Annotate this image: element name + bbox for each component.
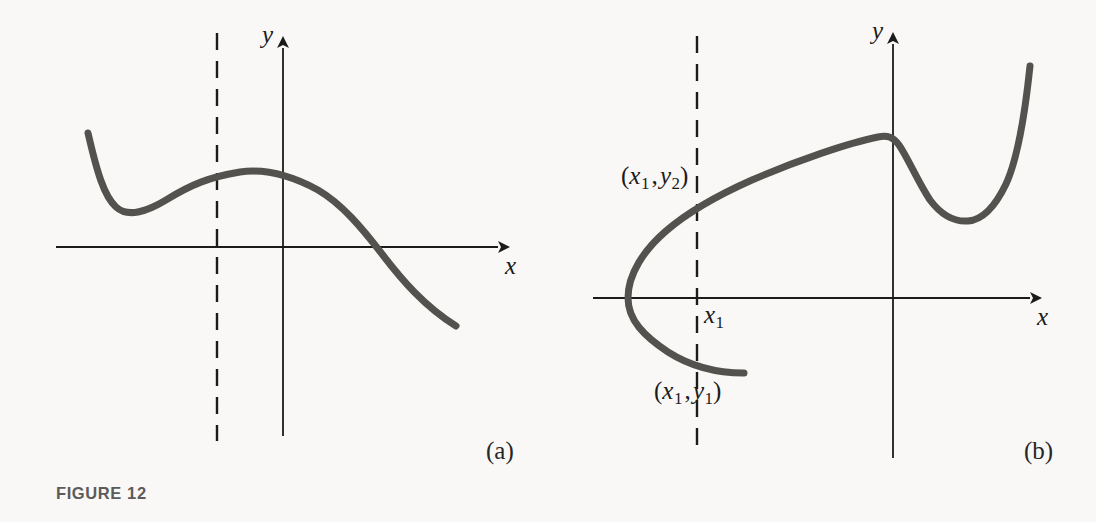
sub-y: 1	[704, 389, 713, 408]
var-x: x	[704, 301, 715, 328]
figure-page: x y (a) x y (x1 , y2) x1 (x1 , y1) (b) F…	[0, 0, 1096, 522]
panel-a-label: (a)	[486, 438, 514, 463]
panel-b-y-axis-label: y	[872, 18, 883, 43]
panel-a-curve	[88, 133, 456, 326]
panel-b-lower-point-label: (x1 , y1)	[654, 378, 721, 407]
var-y: y	[693, 377, 704, 404]
panel-a-y-axis-arrow	[277, 36, 289, 48]
panel-b-upper-point-label: (x1 , y2)	[621, 163, 688, 192]
comma: ,	[649, 162, 659, 189]
comma: ,	[682, 377, 692, 404]
panel-b-curve	[628, 66, 1030, 373]
sub-x: 1	[715, 313, 724, 332]
panel-b-x1-label: x1	[704, 302, 724, 331]
paren-close: )	[713, 377, 721, 404]
var-y: y	[660, 162, 671, 189]
sub-y: 2	[671, 174, 680, 193]
figure-caption: FIGURE 12	[56, 484, 147, 503]
panel-a-x-axis-label: x	[505, 253, 516, 278]
figure-graphics	[0, 0, 1096, 522]
paren-close: )	[680, 162, 688, 189]
panel-b-label: (b)	[1024, 438, 1053, 463]
panel-b-y-axis-arrow	[887, 32, 899, 44]
var-x: x	[629, 162, 640, 189]
panel-b-x-axis-label: x	[1037, 304, 1048, 329]
var-x: x	[662, 377, 673, 404]
panel-a-graphics	[56, 33, 510, 441]
panel-a-y-axis-label: y	[262, 22, 273, 47]
